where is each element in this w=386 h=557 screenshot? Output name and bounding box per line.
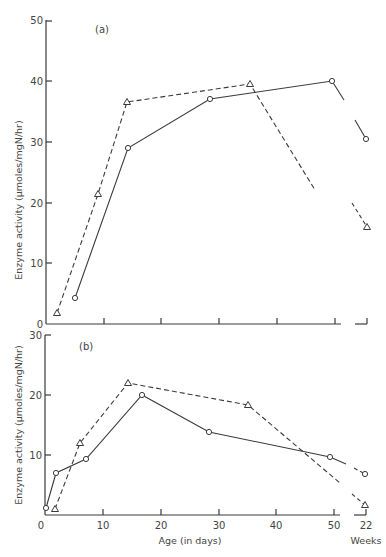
a-series-triangle-line (57, 84, 315, 313)
weeks-label: Weeks (351, 535, 382, 546)
panel-b-label: (b) (79, 341, 93, 352)
b-xtick-0: 0 (38, 520, 44, 531)
b-ylabel: Enzyme activity (μmoles/mgN/hr) (13, 345, 24, 504)
b-series-triangle-line-weeks (352, 494, 365, 505)
b-y-ticks (45, 335, 51, 455)
b-ytick-10: 10 (29, 450, 42, 461)
a-circle-markers (72, 78, 368, 300)
b-xtick-10: 10 (97, 520, 110, 531)
a-ytick-30: 30 (30, 137, 43, 148)
b-xtick-20: 20 (155, 520, 168, 531)
a-ylabel: Enzyme activity (μmoles/mgN/hr) (13, 120, 24, 279)
b-triangle-markers (52, 380, 369, 512)
b-xtick-22-weeks: 22 (360, 520, 373, 531)
b-xlabel: Age (in days) (159, 535, 222, 546)
a-ytick-0: 0 (37, 319, 43, 330)
a-y-ticks (46, 21, 52, 263)
b-xtick-40: 40 (270, 520, 283, 531)
b-series-circle-line (46, 395, 346, 508)
a-ytick-40: 40 (30, 76, 43, 87)
a-ytick-50: 50 (30, 15, 43, 26)
panel-b: 30 20 10 0 10 20 30 40 50 22 Age (in day… (13, 330, 382, 546)
b-x-ticks (103, 509, 366, 515)
b-ytick-30: 30 (29, 330, 42, 341)
b-xtick-50: 50 (328, 520, 341, 531)
a-ytick-10: 10 (30, 258, 43, 269)
a-ytick-20: 20 (30, 198, 43, 209)
panel-a: 50 40 30 20 10 0 (a) Enzyme activity (μm… (13, 15, 371, 330)
b-xtick-30: 30 (213, 520, 226, 531)
panel-a-label: (a) (95, 24, 109, 35)
b-ytick-20: 20 (29, 390, 42, 401)
a-series-triangle-line-weeks (352, 203, 367, 227)
a-series-circle-line (75, 81, 344, 298)
a-series-circle-line-weeks (355, 120, 366, 139)
figure: 50 40 30 20 10 0 (a) Enzyme activity (μm… (0, 0, 386, 557)
a-x-ticks (104, 318, 367, 324)
a-triangle-markers (54, 81, 371, 316)
